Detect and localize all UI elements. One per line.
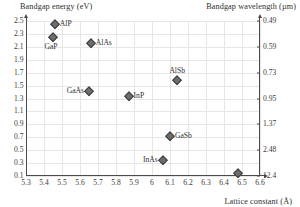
gridline-horizontal	[26, 60, 260, 61]
data-point-label: AlSb	[169, 68, 185, 76]
y-axis-right-tick-label: 0.49	[263, 17, 276, 25]
y-axis-left-tick-label: 1.5	[14, 82, 24, 90]
data-point-label: InP	[134, 92, 145, 100]
y-axis-right-tick-mark	[257, 176, 260, 177]
gridline-horizontal	[26, 111, 260, 112]
x-axis-tick-label: 6.6	[255, 179, 265, 187]
x-axis-tick-label: 6	[150, 179, 154, 187]
data-point-label: GaP	[44, 43, 57, 51]
y-axis-right-title: Bandgap wavelength (µm)	[206, 2, 296, 11]
y-axis-right-tick-label: 0.59	[263, 43, 276, 51]
x-axis-tick-label: 5.4	[39, 179, 49, 187]
gridline-horizontal	[26, 47, 260, 48]
y-axis-left-tick-label: 2.5	[14, 17, 24, 25]
x-axis-tick-label: 5.6	[75, 179, 85, 187]
x-axis-tick-label: 6.4	[219, 179, 229, 187]
y-axis-left-line	[26, 17, 27, 176]
gridline-horizontal	[26, 137, 260, 138]
data-point-label: AlP	[60, 20, 72, 28]
y-axis-right-arrow-icon	[258, 14, 262, 18]
data-point-marker[interactable]	[84, 86, 93, 95]
y-axis-right-tick-mark	[257, 124, 260, 125]
y-axis-right-tick-label: 2.48	[263, 146, 276, 154]
y-axis-right-line	[259, 17, 260, 176]
y-axis-right-tick-label: 0.73	[263, 69, 276, 77]
gridline-horizontal	[26, 86, 260, 87]
y-axis-left-tick-label: 1.9	[14, 56, 24, 64]
y-axis-left-tick-label: 1.7	[14, 69, 24, 77]
x-axis-tick-label: 6.2	[183, 179, 193, 187]
data-point-label: GaSb	[175, 132, 192, 140]
x-axis-tick-label: 6.5	[237, 179, 247, 187]
data-point-marker[interactable]	[165, 131, 174, 140]
y-axis-left-tick-label: 0.5	[14, 146, 24, 154]
data-point-marker[interactable]	[173, 76, 182, 85]
y-axis-right-tick-mark	[257, 21, 260, 22]
y-axis-right-tick-mark	[257, 72, 260, 73]
x-axis-line	[26, 175, 264, 176]
x-axis-tick-label: 6.1	[165, 179, 175, 187]
y-axis-left-arrow-icon	[24, 14, 28, 18]
y-axis-left-tick-label: 0.9	[14, 121, 24, 129]
y-axis-left-tick-label: 1.1	[14, 108, 24, 116]
x-axis-title: Lattice constant (Å)	[225, 197, 292, 206]
x-axis-tick-label: 5.7	[93, 179, 103, 187]
data-point-label: AlAs	[96, 39, 112, 47]
gridline-horizontal	[26, 73, 260, 74]
y-axis-right-tick-mark	[257, 98, 260, 99]
gridline-horizontal	[26, 150, 260, 151]
gridline-vertical	[260, 21, 261, 176]
plot-area: 0.10.30.50.70.91.11.31.51.71.92.12.32.5 …	[26, 21, 260, 176]
y-axis-left-tick-label: 1.3	[14, 95, 24, 103]
chart-page: Bandgap energy (eV) Bandgap wavelength (…	[0, 0, 300, 207]
y-axis-right-tick-label: 1.37	[263, 121, 276, 129]
x-axis-tick-label: 5.9	[129, 179, 139, 187]
y-axis-right-tick-mark	[257, 46, 260, 47]
gridline-horizontal	[26, 124, 260, 125]
y-axis-left-title: Bandgap energy (eV)	[20, 2, 92, 11]
x-axis-tick-label: 5.3	[21, 179, 31, 187]
y-axis-right-tick-mark	[257, 150, 260, 151]
data-point-label: GaAs	[67, 87, 84, 95]
x-axis-tick-label: 5.5	[57, 179, 67, 187]
gridline-horizontal	[26, 34, 260, 35]
y-axis-right-tick-label: 0.95	[263, 95, 276, 103]
x-axis-tick-label: 6.3	[201, 179, 211, 187]
y-axis-left-tick-label: 2.3	[14, 30, 24, 38]
x-axis-tick-label: 5.8	[111, 179, 121, 187]
data-point-label: InAs	[143, 156, 158, 164]
gridline-horizontal	[26, 176, 260, 177]
y-axis-left-tick-label: 0.3	[14, 159, 24, 167]
y-axis-left-tick-label: 2.1	[14, 43, 24, 51]
y-axis-left-tick-label: 0.7	[14, 133, 24, 141]
